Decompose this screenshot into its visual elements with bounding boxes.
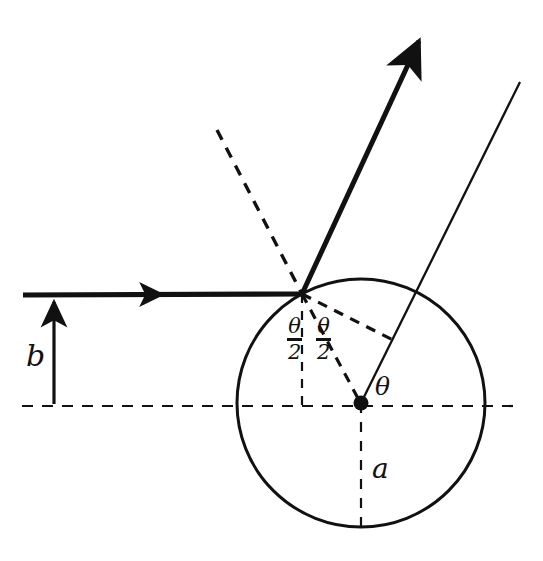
outgoing-ray-line	[302, 41, 419, 294]
sphere-center-dot	[354, 396, 369, 411]
diagram-canvas	[0, 0, 543, 561]
half-angle-left-numerator: θ	[287, 316, 302, 338]
incoming-ray-line	[23, 294, 302, 295]
half-angle-left-denominator: 2	[287, 341, 302, 363]
scattering-direction-thin-line	[361, 82, 520, 403]
half-angle-right-label: θ 2	[316, 316, 331, 363]
half-angle-right-denominator: 2	[316, 341, 331, 363]
half-angle-left-label: θ 2	[287, 316, 302, 363]
surface-normal-dashed-line	[217, 130, 303, 296]
sphere-radius-label: a	[372, 455, 389, 483]
scattering-angle-label: θ	[375, 374, 390, 399]
scattering-diagram-figure: b a θ θ 2 θ 2	[0, 0, 543, 561]
half-angle-right-numerator: θ	[316, 316, 331, 338]
impact-parameter-label: b	[26, 341, 45, 371]
